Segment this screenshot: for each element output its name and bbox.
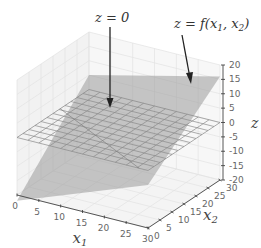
x1-tick-label: 15 bbox=[76, 218, 87, 228]
x2-axis-label: x2 bbox=[203, 206, 218, 225]
x2-tick-label: 25 bbox=[214, 191, 225, 201]
x1-tick-label: 25 bbox=[120, 229, 131, 239]
plot-3d: 051015202530x1051015202530x220151050-5-1… bbox=[0, 0, 261, 248]
annot-z0-text: z = 0 bbox=[94, 10, 129, 25]
z-tick-label: 10 bbox=[229, 89, 241, 99]
z-tick-label: 15 bbox=[229, 74, 240, 84]
z-tick-label: 20 bbox=[229, 60, 241, 70]
z-tick-label: -10 bbox=[229, 146, 244, 156]
x2-tick-label: 15 bbox=[190, 207, 201, 217]
x2-tick-label: 10 bbox=[178, 215, 190, 225]
x1-subscript: 1 bbox=[81, 237, 87, 248]
x1-tick-label: 20 bbox=[98, 223, 110, 233]
z-axis-label: z bbox=[250, 115, 259, 131]
x1-tick-label: 30 bbox=[142, 234, 154, 244]
z-tick-label: 0 bbox=[229, 118, 235, 128]
z-tick-label: -5 bbox=[229, 132, 238, 142]
plot-canvas: 051015202530x1051015202530x220151050-5-1… bbox=[0, 0, 261, 248]
x1-tick-label: 10 bbox=[54, 212, 66, 222]
annotation-z-equals-0: z = 0 bbox=[94, 10, 129, 25]
annot-f-part: z = f(x bbox=[173, 16, 218, 31]
z-tick-label: -15 bbox=[229, 161, 244, 171]
x1-tick-label: 0 bbox=[12, 201, 18, 211]
x2-subscript: 2 bbox=[210, 214, 217, 225]
annot-f-part: , x bbox=[223, 16, 239, 31]
x1-tick-label: 5 bbox=[34, 207, 40, 217]
x2-tick-label: 0 bbox=[154, 231, 160, 241]
x1-axis-label: x1 bbox=[73, 229, 88, 248]
annot-f-part: ) bbox=[243, 16, 249, 31]
z-tick-label: 5 bbox=[229, 103, 235, 113]
x2-tick-label: 5 bbox=[166, 223, 172, 233]
z-tick-label: -20 bbox=[229, 175, 244, 185]
annotation-z-equals-f: z = f(x1, x2) bbox=[173, 16, 249, 33]
